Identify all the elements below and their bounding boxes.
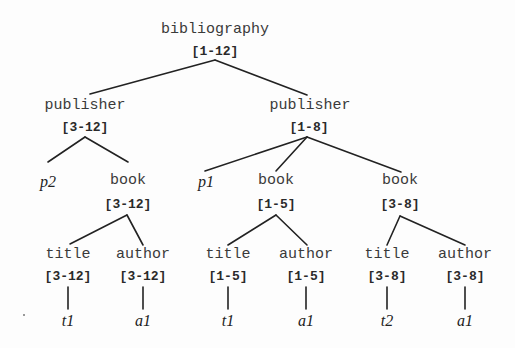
edge-pub1-book1 — [85, 137, 128, 162]
range-book-1: [3-12] — [105, 198, 152, 211]
edge-book3-title3 — [387, 216, 400, 245]
leaf-t2: t2 — [381, 313, 393, 329]
node-book-2: book — [258, 173, 294, 188]
leaf-p2: p2 — [40, 174, 56, 190]
range-title-2: [1-5] — [208, 270, 247, 283]
node-author-2: author — [279, 247, 333, 262]
node-publisher-2: publisher — [269, 98, 350, 113]
node-title-1: title — [45, 247, 90, 262]
leaf-a1-a: a1 — [135, 313, 151, 329]
node-author-1: author — [116, 247, 170, 262]
scan-speck — [23, 314, 25, 316]
edge-book3-author3 — [400, 216, 465, 245]
edge-book1-title1 — [70, 215, 127, 244]
edge-book1-author1 — [127, 215, 143, 245]
node-bibliography: bibliography — [161, 22, 269, 37]
edge-root-pub1 — [90, 60, 215, 94]
edge-book2-author2 — [276, 215, 307, 245]
node-publisher-1: publisher — [44, 98, 125, 113]
edge-book2-title2 — [228, 215, 276, 245]
node-title-2: title — [205, 247, 250, 262]
edge-root-pub2 — [215, 60, 307, 95]
range-bibliography: [1-12] — [192, 45, 239, 58]
leaf-p1: p1 — [198, 174, 214, 190]
edge-pub1-p2 — [48, 137, 85, 162]
node-title-3: title — [364, 247, 409, 262]
tree-diagram: bibliography [1-12] publisher [3-12] pub… — [0, 0, 515, 348]
range-author-2: [1-5] — [286, 270, 325, 283]
leaf-t1-a: t1 — [62, 313, 74, 329]
leaf-t1-b: t1 — [222, 313, 234, 329]
edge-pub2-book3 — [307, 137, 401, 172]
node-book-3: book — [382, 173, 418, 188]
range-author-1: [3-12] — [120, 270, 167, 283]
range-title-1: [3-12] — [45, 270, 92, 283]
node-author-3: author — [438, 247, 492, 262]
range-book-2: [1-5] — [256, 198, 295, 211]
range-publisher-2: [1-8] — [289, 121, 328, 134]
leaf-a1-c: a1 — [457, 313, 473, 329]
range-author-3: [3-8] — [445, 270, 484, 283]
range-publisher-1: [3-12] — [62, 121, 109, 134]
range-book-3: [3-8] — [380, 198, 419, 211]
range-title-3: [3-8] — [367, 270, 406, 283]
node-book-1: book — [110, 173, 146, 188]
leaf-a1-b: a1 — [298, 313, 314, 329]
